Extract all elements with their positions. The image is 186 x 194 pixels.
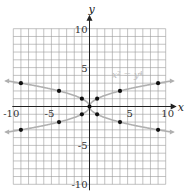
svg-text:-5: -5 — [45, 108, 55, 119]
x-axis-label: x — [178, 101, 185, 114]
svg-text:5: 5 — [81, 63, 87, 74]
svg-text:10: 10 — [75, 24, 88, 35]
svg-text:5: 5 — [126, 108, 132, 119]
y-axis-label: y — [88, 3, 96, 16]
svg-text:-10: -10 — [3, 108, 19, 119]
svg-text:-10: -10 — [71, 179, 87, 190]
svg-text:10: 10 — [161, 108, 174, 119]
equation-label: x² = y⁴ — [112, 70, 143, 80]
svg-text:-5: -5 — [78, 140, 88, 151]
axes — [12, 15, 176, 191]
graph-canvas: -10-5510105-5-10 x y x² = y⁴ — [0, 0, 186, 194]
